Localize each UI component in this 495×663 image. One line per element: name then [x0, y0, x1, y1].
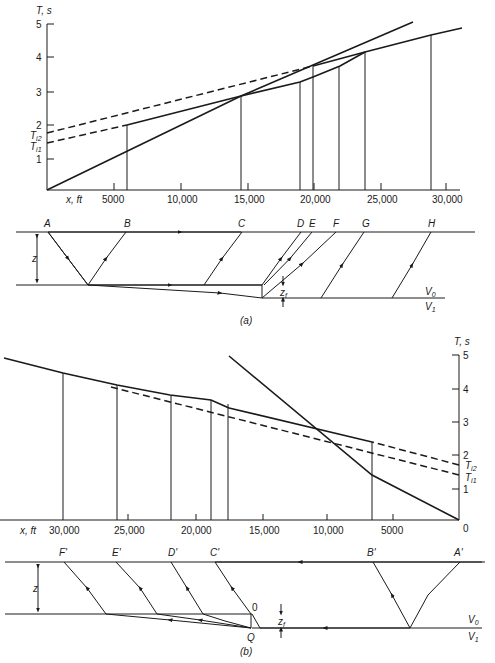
x-tick-30000: 30,000	[432, 194, 463, 205]
point-A-prime: A'	[453, 547, 464, 558]
y-ticks-a	[47, 24, 54, 159]
x-tick-b-5000: 5000	[381, 525, 404, 536]
rays-b	[64, 562, 482, 628]
y-tick-2: 2	[36, 120, 42, 131]
v1-label-b: V1	[468, 631, 479, 643]
caption-a: (a)	[240, 315, 252, 326]
x-tick-b-20000: 20,000	[181, 525, 212, 536]
v0-label-a: V0	[425, 286, 436, 298]
point-C: C	[238, 218, 246, 229]
v0-label-b: V0	[468, 614, 479, 626]
y-axis-label-a: T, s	[36, 5, 52, 16]
x-ticks-a	[114, 183, 446, 190]
throw-label-b: zf	[277, 616, 286, 628]
x-axis-label-b: x, ft	[19, 525, 37, 536]
point-E: E	[309, 218, 316, 229]
point-F-prime: F'	[59, 547, 68, 558]
point-B-prime: B'	[367, 547, 377, 558]
point-H: H	[428, 218, 436, 229]
fault-bottom-point-Q: Q	[247, 632, 255, 643]
x-tick-5000: 5000	[102, 194, 125, 205]
y-tick-5: 5	[36, 19, 42, 30]
x-ticks-b	[128, 514, 393, 520]
x-tick-25000: 25,000	[367, 194, 398, 205]
throw-label-a: zf	[279, 287, 288, 299]
ray-diagram-a: A B C D E F G H z zf V0 V	[16, 218, 475, 326]
y-tick-b-0: 0	[463, 523, 469, 534]
ray-diagram-b: F' E' D' C' B' A' 0 Q z zf V0 V1 (b)	[5, 547, 485, 657]
point-D: D	[297, 218, 304, 229]
chart-b: T, s 5 4 3 2 1 0 Ti2 Ti1 x, ft 30,000 25…	[0, 336, 477, 536]
x-tick-15000: 15,000	[234, 194, 265, 205]
depth-label-a: z	[31, 253, 37, 264]
y-tick-b-5: 5	[463, 350, 469, 361]
x-tick-b-25000: 25,000	[114, 525, 145, 536]
traveltime-curves-b	[4, 356, 459, 520]
fault-top-point: 0	[252, 602, 258, 613]
ti2-label-b: Ti2	[465, 460, 477, 472]
y-ticks-b	[452, 355, 459, 489]
y-tick-b-4: 4	[463, 384, 469, 395]
point-C-prime: C'	[210, 547, 220, 558]
y-tick-4: 4	[36, 52, 42, 63]
y-tick-b-3: 3	[463, 417, 469, 428]
point-F: F	[333, 218, 340, 229]
y-axis-label-b: T, s	[454, 336, 470, 347]
x-axis-label-a: x, ft	[65, 194, 83, 205]
ti1-label-b: Ti1	[465, 472, 477, 484]
x-tick-b-15000: 15,000	[249, 525, 280, 536]
v1-label-a: V1	[425, 301, 436, 313]
depth-label-b: z	[32, 583, 38, 594]
point-D-prime: D'	[168, 547, 178, 558]
point-G: G	[362, 218, 370, 229]
point-E-prime: E'	[112, 547, 122, 558]
x-tick-20000: 20,000	[300, 194, 331, 205]
caption-b: (b)	[240, 646, 252, 657]
x-tick-b-10000: 10,000	[313, 525, 344, 536]
chart-a: T, s 5 4 3 2 1 Ti2 Ti1 x, ft 5000 10,000…	[30, 5, 463, 205]
y-tick-b-1: 1	[463, 484, 469, 495]
ti1-label-a: Ti1	[30, 141, 42, 153]
figure-canvas: T, s 5 4 3 2 1 Ti2 Ti1 x, ft 5000 10,000…	[0, 0, 495, 663]
x-tick-b-30000: 30,000	[49, 525, 80, 536]
point-A: A	[43, 218, 51, 229]
rays-a	[48, 232, 431, 298]
point-B: B	[124, 218, 131, 229]
traveltime-curves-a	[47, 22, 462, 190]
y-tick-1: 1	[36, 154, 42, 165]
x-tick-10000: 10,000	[167, 194, 198, 205]
y-tick-3: 3	[36, 87, 42, 98]
